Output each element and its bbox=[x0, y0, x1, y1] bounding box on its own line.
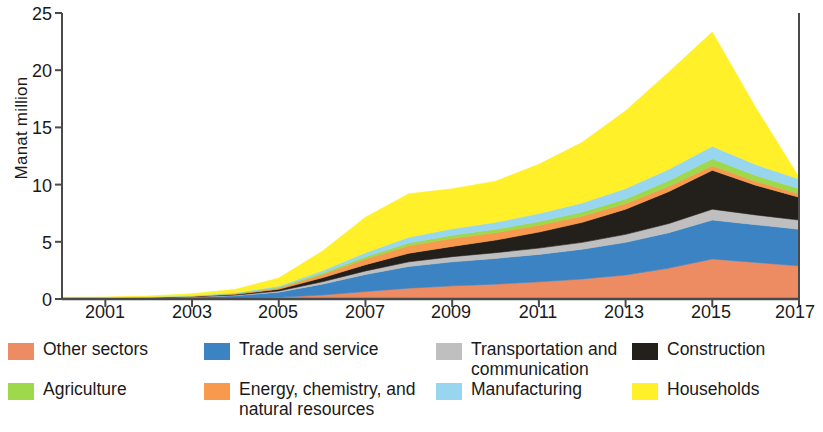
plot-area: Manat million 25 20 15 10 5 0 2001 2003 … bbox=[0, 0, 823, 335]
stacked-area-chart-figure: Manat million 25 20 15 10 5 0 2001 2003 … bbox=[0, 0, 823, 432]
legend-swatch-icon-households bbox=[632, 383, 658, 400]
stacked-areas bbox=[62, 32, 799, 299]
x-tick-2007: 2007 bbox=[333, 302, 397, 323]
legend-label-agriculture: Agriculture bbox=[43, 380, 127, 400]
x-tick-2011: 2011 bbox=[506, 302, 570, 323]
x-tick-2005: 2005 bbox=[246, 302, 310, 323]
chart-canvas bbox=[0, 0, 823, 335]
legend-item-other-sectors[interactable]: Other sectors bbox=[8, 340, 204, 360]
legend-label-other-sectors: Other sectors bbox=[43, 340, 148, 360]
legend-item-construction[interactable]: Construction bbox=[632, 340, 823, 360]
x-tick-2017: 2017 bbox=[763, 302, 823, 323]
legend-swatch-icon-energy-chemistry-natural-resources bbox=[204, 383, 230, 400]
legend-label-trade-and-service: Trade and service bbox=[239, 340, 378, 360]
legend-item-transportation-and-communication[interactable]: Transportation and communication bbox=[436, 340, 632, 379]
legend-item-trade-and-service[interactable]: Trade and service bbox=[204, 340, 436, 360]
x-tick-2013: 2013 bbox=[592, 302, 656, 323]
legend-label-transportation-and-communication: Transportation and communication bbox=[471, 340, 632, 379]
legend-swatch-icon-construction bbox=[632, 343, 658, 360]
legend-swatch-icon-trade-and-service bbox=[204, 343, 230, 360]
legend-label-energy-chemistry-natural-resources: Energy, chemistry, and natural resources bbox=[239, 380, 436, 419]
x-tick-2009: 2009 bbox=[419, 302, 483, 323]
x-tick-2001: 2001 bbox=[73, 302, 137, 323]
legend-swatch-icon-agriculture bbox=[8, 383, 34, 400]
legend-label-households: Households bbox=[667, 380, 759, 400]
x-tick-2015: 2015 bbox=[679, 302, 743, 323]
legend-swatch-icon-manufacturing bbox=[436, 383, 462, 400]
legend-item-energy-chemistry-natural-resources[interactable]: Energy, chemistry, and natural resources bbox=[204, 380, 436, 419]
legend-item-households[interactable]: Households bbox=[632, 380, 823, 400]
legend-label-construction: Construction bbox=[667, 340, 765, 360]
chart-legend: Other sectors Trade and service Transpor… bbox=[0, 337, 823, 432]
legend-swatch-icon-other-sectors bbox=[8, 343, 34, 360]
legend-item-manufacturing[interactable]: Manufacturing bbox=[436, 380, 632, 400]
legend-swatch-icon-transportation-and-communication bbox=[436, 343, 462, 360]
legend-label-manufacturing: Manufacturing bbox=[471, 380, 582, 400]
legend-item-agriculture[interactable]: Agriculture bbox=[8, 380, 204, 400]
x-tick-2003: 2003 bbox=[160, 302, 224, 323]
